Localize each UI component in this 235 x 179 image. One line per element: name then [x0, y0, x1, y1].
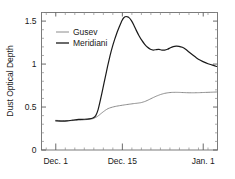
y-tick-label: 0.5 [25, 102, 37, 112]
y-axis-title: Dust Optical Depth [5, 45, 15, 117]
chart-legend: GusevMeridiani [56, 27, 108, 48]
y-axis-tick-labels: 00.511.5 [25, 16, 37, 155]
x-tick-label: Dec. 15 [108, 156, 138, 166]
plot-frame [42, 13, 218, 151]
chart-figure: 00.511.5 Dec. 1Dec. 15Jan. 1 Dust Optica… [0, 0, 235, 179]
legend-label-gusev: Gusev [73, 27, 98, 37]
series-line-gusev [56, 92, 217, 121]
y-tick-label: 1.5 [25, 16, 37, 26]
y-tick-label: 0 [32, 145, 37, 155]
x-tick-label: Dec. 1 [43, 156, 68, 166]
x-axis-tick-labels: Dec. 1Dec. 15Jan. 1 [43, 156, 215, 166]
y-tick-label: 1 [32, 59, 37, 69]
y-axis-ticks [42, 13, 218, 151]
x-tick-label: Jan. 1 [192, 156, 215, 166]
dust-optical-depth-line-chart: 00.511.5 Dec. 1Dec. 15Jan. 1 Dust Optica… [0, 0, 235, 179]
x-axis-ticks [46, 13, 208, 151]
legend-label-meridiani: Meridiani [73, 38, 108, 48]
